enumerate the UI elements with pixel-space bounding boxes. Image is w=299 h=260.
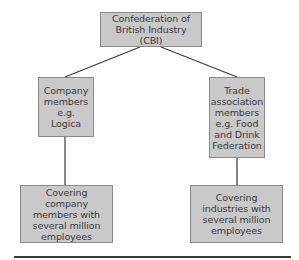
node-covering-industries-label: Covering industries with several million… (202, 192, 270, 236)
node-company-members-label: Company members e.g. Logica (44, 85, 89, 129)
node-covering-company-label: Covering company members with several mi… (24, 187, 109, 242)
node-covering-company-members: Covering company members with several mi… (20, 185, 113, 243)
node-cbi-label: Confederation of British Industry (CBI) (104, 13, 198, 46)
node-trade-association-members: Trade association members e.g. Food and … (209, 77, 265, 158)
edge-root-to-company (65, 47, 140, 77)
node-company-members: Company members e.g. Logica (38, 77, 94, 137)
edge-root-to-trade (161, 47, 237, 77)
node-trade-association-label: Trade association members e.g. Food and … (211, 85, 263, 151)
bottom-divider (14, 256, 291, 258)
node-cbi: Confederation of British Industry (CBI) (100, 12, 202, 47)
node-covering-industries: Covering industries with several million… (190, 185, 283, 243)
